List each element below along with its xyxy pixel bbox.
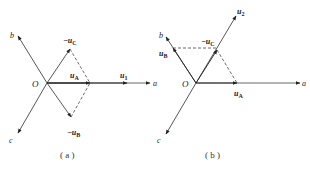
label-neg-ub: −uB <box>67 128 80 138</box>
vector-neg-ub <box>47 83 71 117</box>
origin-label: O <box>32 79 39 89</box>
dashed-line <box>217 50 237 83</box>
label-ub: uB <box>159 49 167 59</box>
label-neg-uc: −uC <box>63 36 77 46</box>
label-ua: uA <box>70 71 79 81</box>
vector-neg-uc <box>196 50 217 83</box>
diagram-a: O a b c −uC −uB uA u1 ( a ) <box>9 31 157 160</box>
diagram-b: O a b c u2 −uC uB uA ( b ) <box>157 7 306 160</box>
caption-b: ( b ) <box>205 150 220 160</box>
axis-c <box>166 83 196 134</box>
axis-a-label: a <box>153 79 157 88</box>
axis-a-label: a <box>302 79 306 88</box>
axis-b-label: b <box>159 31 163 40</box>
label-ua: uA <box>234 89 243 99</box>
vector-ub <box>173 48 196 83</box>
label-u1: u1 <box>120 71 127 81</box>
caption-a: ( a ) <box>60 150 75 160</box>
axis-c-label: c <box>157 136 161 145</box>
phasor-diagrams: O a b c −uC −uB uA u1 ( a ) O a b c u2 −… <box>0 0 310 169</box>
dashed-line <box>71 83 90 117</box>
label-u2: u2 <box>237 7 244 17</box>
origin-label: O <box>182 79 189 89</box>
label-neg-uc: −uC <box>201 37 215 47</box>
axis-b-label: b <box>10 31 14 40</box>
axis-b <box>18 36 47 83</box>
axis-c-label: c <box>9 136 13 145</box>
vector-neg-uc <box>47 49 70 83</box>
axis-c <box>18 83 47 133</box>
